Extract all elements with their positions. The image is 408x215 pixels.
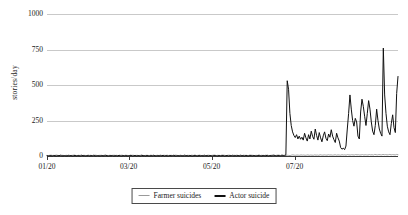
y-tick-label: 1000 bbox=[0, 10, 43, 18]
legend-label: Actor suicide bbox=[229, 191, 269, 200]
x-tick-label: 03/20 bbox=[120, 162, 137, 171]
series-group bbox=[47, 14, 398, 156]
legend-swatch-icon bbox=[139, 195, 150, 196]
series-line bbox=[47, 48, 398, 156]
x-tick-label: 05/20 bbox=[203, 162, 220, 171]
y-tick-label: 0 bbox=[0, 152, 43, 160]
y-tick-label: 250 bbox=[0, 117, 43, 125]
legend-swatch-icon bbox=[214, 195, 225, 197]
x-tick-mark bbox=[47, 156, 48, 160]
x-tick-mark bbox=[129, 156, 130, 160]
legend-label: Farmer suicides bbox=[154, 191, 202, 200]
x-tick-label: 07/20 bbox=[286, 162, 303, 171]
x-tick-mark bbox=[212, 156, 213, 160]
legend-item[interactable]: Actor suicide bbox=[214, 191, 269, 200]
y-tick-label: 750 bbox=[0, 46, 43, 54]
chart-legend: Farmer suicidesActor suicide bbox=[132, 188, 277, 204]
x-tick-label: 01/20 bbox=[38, 162, 55, 171]
chart-figure: stories/day 02505007501000 01/2003/2005/… bbox=[0, 0, 408, 215]
legend-item[interactable]: Farmer suicides bbox=[139, 191, 202, 200]
plot-area: 02505007501000 01/2003/2005/2007/20 bbox=[47, 14, 398, 156]
x-tick-mark bbox=[295, 156, 296, 160]
y-tick-label: 500 bbox=[0, 81, 43, 89]
